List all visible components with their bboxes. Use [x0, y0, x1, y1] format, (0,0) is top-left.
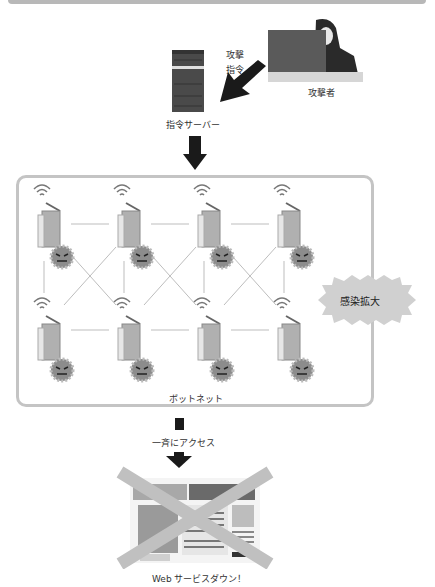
- bot-node: [270, 181, 318, 273]
- spread-badge-label: 感染拡大: [340, 293, 380, 308]
- bot-node: [270, 294, 318, 386]
- bot-node: [30, 294, 78, 386]
- bot-node: [190, 181, 238, 273]
- arrow-stem: [175, 418, 184, 430]
- top-divider: [8, 0, 426, 4]
- server-label: 指令サーバー: [166, 118, 220, 131]
- bot-node: [110, 294, 158, 386]
- command-arrow: [218, 60, 268, 105]
- botnet-label: ボットネット: [169, 392, 223, 405]
- access-label: 一斉にアクセス: [152, 436, 215, 449]
- down-arrow-1: [183, 136, 207, 172]
- attacker-figure: [268, 18, 363, 83]
- bot-node: [190, 294, 238, 386]
- bot-node: [110, 181, 158, 273]
- failure-cross-icon: [112, 466, 277, 569]
- result-label: Web サービスダウン！: [152, 572, 246, 585]
- server-icon: [172, 50, 204, 112]
- attacker-label: 攻撃者: [308, 86, 335, 99]
- bot-node: [30, 181, 78, 273]
